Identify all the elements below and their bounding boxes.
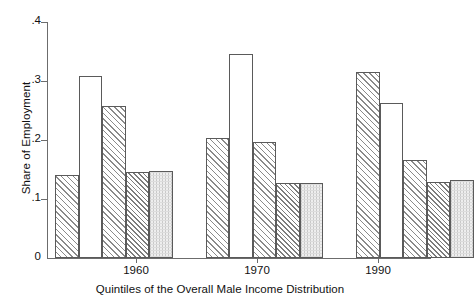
y-tick-0: 0 [0, 258, 41, 259]
bar-1970-q3 [253, 142, 277, 258]
bar-1990-q4 [427, 182, 451, 258]
y-tick-label: 0 [19, 250, 41, 262]
x-tick-mark [257, 258, 258, 263]
y-tick-label: .3 [19, 73, 41, 85]
bar-1970-q5 [300, 183, 324, 258]
y-tick-0.1: .1 [0, 199, 41, 200]
y-tick-label: .4 [19, 14, 41, 26]
bar-1990-q3 [403, 160, 427, 258]
bar-1970-q4 [276, 183, 300, 258]
x-tick-mark [378, 258, 379, 263]
y-tick-label: .2 [19, 132, 41, 144]
x-tick-mark [136, 258, 137, 263]
x-axis-line [47, 258, 431, 259]
x-group-label-1960: 1960 [106, 264, 166, 276]
bar-1960-q3 [102, 106, 126, 258]
x-axis-title: Quintiles of the Overall Male Income Dis… [0, 283, 440, 295]
bar-1990-q2 [380, 103, 404, 258]
bar-1970-q1 [206, 138, 230, 258]
x-group-label-1970: 1970 [227, 264, 287, 276]
y-tick-0.4: .4 [0, 22, 41, 23]
bar-1970-q2 [229, 54, 253, 258]
bar-1960-q1 [55, 175, 79, 258]
bar-1960-q5 [149, 171, 173, 258]
y-tick-0.3: .3 [0, 81, 41, 82]
y-tick-label: .1 [19, 191, 41, 203]
y-tick-0.2: .2 [0, 140, 41, 141]
bar-1990-q5 [450, 180, 474, 258]
x-group-label-1990: 1990 [348, 264, 408, 276]
bar-1960-q4 [126, 172, 150, 258]
bar-1960-q2 [79, 76, 103, 258]
plot-area [47, 22, 431, 258]
bar-1990-q1 [356, 72, 380, 258]
